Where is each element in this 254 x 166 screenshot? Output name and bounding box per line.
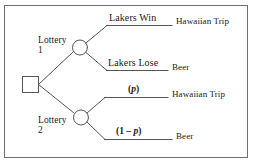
branch-label-probability-one-minus-p: (1 – p) <box>116 127 141 137</box>
edge-lottery2-1mp-diagonal <box>87 122 105 140</box>
prob-1mp-open: (1 – <box>116 126 133 136</box>
outcome-label-beer-lose: Beer <box>172 63 189 72</box>
decision-tree-figure: Lottery 1 Lottery 2 Lakers Win Hawaiian … <box>0 0 254 166</box>
chance-node-lottery2-circle <box>74 110 89 125</box>
decision-node-square <box>23 77 39 93</box>
node-label-lottery1-number: 1 <box>38 46 67 56</box>
branch-label-lakers-lose: Lakers Lose <box>108 58 158 69</box>
edge-decision-to-lottery2 <box>39 85 75 114</box>
outcome-label-hawaiian-trip-win: Hawaiian Trip <box>176 17 229 26</box>
prob-p-close-paren: ) <box>136 84 139 94</box>
edge-lottery1-win-diagonal <box>86 26 107 44</box>
node-label-lottery1-name: Lottery <box>38 35 67 45</box>
outcome-label-hawaiian-trip-p: Hawaiian Trip <box>172 90 225 99</box>
branch-label-probability-p: (p) <box>128 85 139 95</box>
node-label-lottery2-number: 2 <box>38 126 67 136</box>
node-label-lottery2: Lottery 2 <box>38 116 67 136</box>
prob-1mp-close: ) <box>138 126 141 136</box>
edge-lottery2-p-diagonal <box>87 98 105 114</box>
branch-label-lakers-win: Lakers Win <box>109 13 156 24</box>
outcome-label-beer-1mp: Beer <box>176 132 193 141</box>
edge-lottery1-lose-diagonal <box>86 53 107 71</box>
node-label-lottery1: Lottery 1 <box>38 36 67 56</box>
edge-decision-to-lottery1 <box>39 52 74 85</box>
node-label-lottery2-name: Lottery <box>38 115 67 125</box>
chance-node-lottery1-circle <box>73 40 88 55</box>
